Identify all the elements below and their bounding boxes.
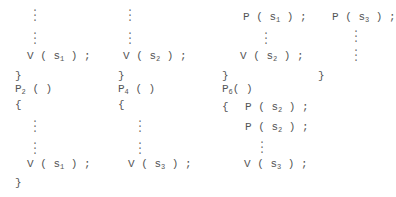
ellipsis-vertical: ··· (127, 31, 131, 46)
closing-brace: } (15, 69, 22, 83)
code-line: V ( s1 ) ; (27, 49, 91, 66)
code-line: V ( s3 ) ; (128, 157, 192, 174)
code-line: P ( s2 ) ; (245, 120, 309, 137)
ellipsis-vertical: ··· (259, 140, 263, 155)
ellipsis-vertical: ··· (127, 8, 131, 23)
ellipsis-vertical: ··· (263, 31, 267, 46)
closing-brace: } (318, 69, 325, 83)
ellipsis-vertical: ··· (353, 48, 357, 63)
procedure-header: P2 ( ) (15, 82, 52, 99)
closing-brace: } (222, 69, 229, 83)
procedure-header: P4 ( ) (118, 82, 155, 99)
procedure-header: P6( ) (222, 82, 253, 99)
closing-brace: } (118, 69, 125, 83)
code-line: V ( s2 ) ; (240, 49, 304, 66)
code-line: V ( s3 ) ; (244, 157, 308, 174)
opening-brace: { (15, 98, 22, 112)
code-line: V ( s1 ) ; (27, 157, 91, 174)
code-line: P ( s1 ) ; (243, 10, 307, 27)
opening-brace: { (118, 98, 125, 112)
closing-brace: } (15, 176, 22, 190)
ellipsis-vertical: ··· (32, 31, 36, 46)
code-line: P ( s3 ) ; (332, 10, 396, 27)
ellipsis-vertical: ··· (32, 8, 36, 23)
ellipsis-vertical: ··· (137, 141, 141, 156)
ellipsis-vertical: ··· (32, 141, 36, 156)
opening-brace: { (222, 100, 229, 114)
code-line: P ( s2 ) ; (245, 100, 309, 117)
code-line: V ( s2 ) ; (123, 49, 187, 66)
ellipsis-vertical: ··· (32, 119, 36, 134)
ellipsis-vertical: ··· (137, 119, 141, 134)
ellipsis-vertical: ··· (353, 29, 357, 44)
